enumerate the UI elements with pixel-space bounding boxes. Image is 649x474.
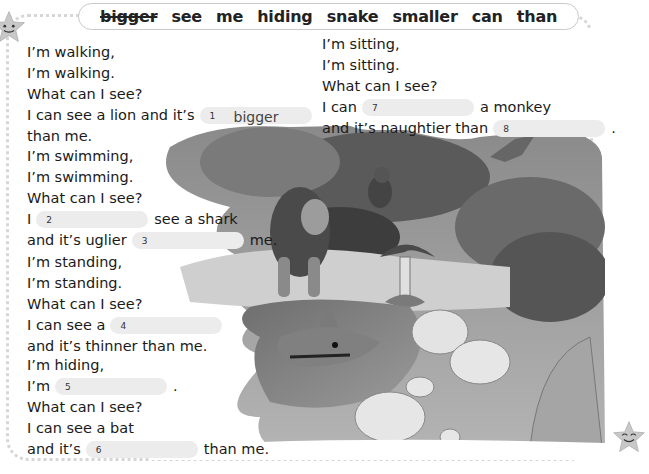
word-bigger[interactable]: bigger bbox=[93, 7, 164, 26]
verse-text: I can see a lion and it’s bbox=[27, 105, 195, 126]
gap-answer: bigger bbox=[234, 107, 279, 128]
word-see[interactable]: see bbox=[164, 7, 209, 26]
verse-text: and it’s bbox=[27, 439, 81, 460]
verse-line: I’m swimming, bbox=[27, 146, 277, 167]
verse-line: I’m walking, bbox=[27, 42, 318, 63]
gap-number: 6 bbox=[96, 440, 102, 461]
verse-text: . bbox=[611, 118, 616, 139]
word-smaller[interactable]: smaller bbox=[385, 7, 464, 26]
verse-text: and it’s naughtier than bbox=[322, 118, 488, 139]
smiling-star-icon bbox=[0, 10, 26, 44]
verse-sitting: I’m sitting, I’m sitting. What can I see… bbox=[322, 34, 616, 139]
verse-line: I’m standing. bbox=[27, 273, 228, 294]
word-snake[interactable]: snake bbox=[320, 7, 386, 26]
verse-line: I’m standing, bbox=[27, 252, 228, 273]
word-me[interactable]: me bbox=[209, 7, 250, 26]
verse-line: What can I see? bbox=[27, 84, 318, 105]
verse-hiding: I’m hiding, I’m 5 . What can I see? I ca… bbox=[27, 355, 269, 460]
verse-line: I’m walking. bbox=[27, 63, 318, 84]
verse-line: What can I see? bbox=[27, 188, 277, 209]
gap-number: 1 bbox=[210, 106, 216, 127]
word-hiding[interactable]: hiding bbox=[250, 7, 319, 26]
answer-gap-2[interactable]: 2 bbox=[36, 211, 148, 228]
verse-swimming: I’m swimming, I’m swimming. What can I s… bbox=[27, 146, 277, 251]
verse-line: I’m sitting, bbox=[322, 34, 616, 55]
verse-line: What can I see? bbox=[27, 294, 228, 315]
verse-text: . bbox=[173, 376, 178, 397]
word-can[interactable]: can bbox=[465, 7, 510, 26]
answer-gap-5[interactable]: 5 bbox=[55, 378, 167, 395]
verse-text: I bbox=[27, 209, 31, 230]
verse-text: a monkey bbox=[480, 97, 551, 118]
verse-text: I can see a bbox=[27, 315, 105, 336]
gap-number: 7 bbox=[372, 98, 378, 119]
verse-walking: I’m walking, I’m walking. What can I see… bbox=[27, 42, 318, 147]
gap-number: 4 bbox=[120, 316, 126, 337]
verse-line: I’m swimming. bbox=[27, 167, 277, 188]
answer-gap-1[interactable]: 1 bigger bbox=[200, 107, 312, 124]
verse-line: I can see a bat bbox=[27, 418, 269, 439]
smiling-star-icon bbox=[612, 420, 646, 454]
answer-gap-6[interactable]: 6 bbox=[86, 441, 198, 458]
verse-line: I’m sitting. bbox=[322, 55, 616, 76]
verse-line: What can I see? bbox=[322, 76, 616, 97]
answer-gap-3[interactable]: 3 bbox=[132, 232, 244, 249]
verse-standing: I’m standing, I’m standing. What can I s… bbox=[27, 252, 228, 357]
answer-gap-7[interactable]: 7 bbox=[362, 99, 474, 116]
verse-line: I’m hiding, bbox=[27, 355, 269, 376]
gap-number: 5 bbox=[65, 377, 71, 398]
verse-line: What can I see? bbox=[27, 397, 269, 418]
gap-number: 8 bbox=[503, 119, 509, 140]
verse-text: I can bbox=[322, 97, 357, 118]
verse-text: I’m bbox=[27, 376, 50, 397]
gap-number: 3 bbox=[142, 231, 148, 252]
verse-line: and it’s thinner than me. bbox=[27, 336, 228, 357]
gap-number: 2 bbox=[46, 210, 52, 231]
verse-text: than me. bbox=[204, 439, 269, 460]
verse-text: me. bbox=[250, 230, 278, 251]
verse-text: see a shark bbox=[154, 209, 238, 230]
verse-text: and it’s uglier bbox=[27, 230, 127, 251]
word-bank: bigger see me hiding snake smaller can t… bbox=[78, 3, 579, 30]
verse-line: than me. bbox=[27, 126, 318, 147]
answer-gap-8[interactable]: 8 bbox=[493, 120, 605, 137]
word-than[interactable]: than bbox=[510, 7, 564, 26]
answer-gap-4[interactable]: 4 bbox=[110, 317, 222, 334]
